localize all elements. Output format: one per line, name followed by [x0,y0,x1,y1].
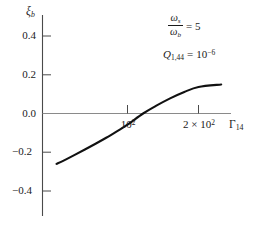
x-axis-label: Γ14 [229,119,243,132]
y-tick-label-minus-0.4: −0.4 [4,185,32,196]
y-tick-label-0.0: 0.0 [8,108,36,119]
plot-area [0,0,264,227]
omega-fraction: ωs ωb [168,12,183,40]
x-tick-base: 10 [121,118,132,130]
x-tick-label-1e2: 102 [113,119,143,130]
y-tick-text: −0.2 [12,145,32,157]
y-axis-subscript: b [31,10,35,19]
x-tick-base: 10 [200,118,211,130]
q-symbol: Q [163,48,171,60]
omega-relation: = 5 [183,20,200,32]
x-axis-subscript: 14 [236,123,244,132]
x-tick-label-2e2: 2 × 102 [173,119,225,130]
q-relation: = [184,48,196,60]
annotation-q-value: Q1,44=10−6 [163,48,215,62]
q-value-exponent: −6 [207,48,215,57]
annotation-omega-ratio: ωs ωb = 5 [168,12,200,40]
omega-numerator-symbol: ω [170,12,177,23]
y-tick-text: −0.4 [12,184,32,196]
omega-numerator: ωs [168,12,183,26]
q-value-base: 10 [196,48,207,60]
y-tick-text: 0.4 [22,29,36,41]
x-tick-exponent: 2 [211,118,215,127]
y-tick-text: 0.2 [22,68,36,80]
x-tick-exponent: 2 [132,118,136,127]
q-subscript: 1,44 [171,53,184,62]
omega-numerator-subscript: s [178,17,181,25]
y-tick-label-0.4: 0.4 [8,30,36,41]
y-axis-label: ξb [26,6,35,19]
y-tick-text: 0.0 [22,107,36,119]
omega-denominator-subscript: b [177,31,181,39]
x-axis-symbol: Γ [229,118,236,130]
figure-container: ξb 0.4 0.2 0.0 −0.2 −0.4 102 2 × 102 Γ14… [0,0,264,227]
x-tick-prefix: 2 × [183,118,200,130]
omega-denominator: ωb [168,26,183,39]
y-tick-label-0.2: 0.2 [8,69,36,80]
y-tick-label-minus-0.2: −0.2 [4,146,32,157]
